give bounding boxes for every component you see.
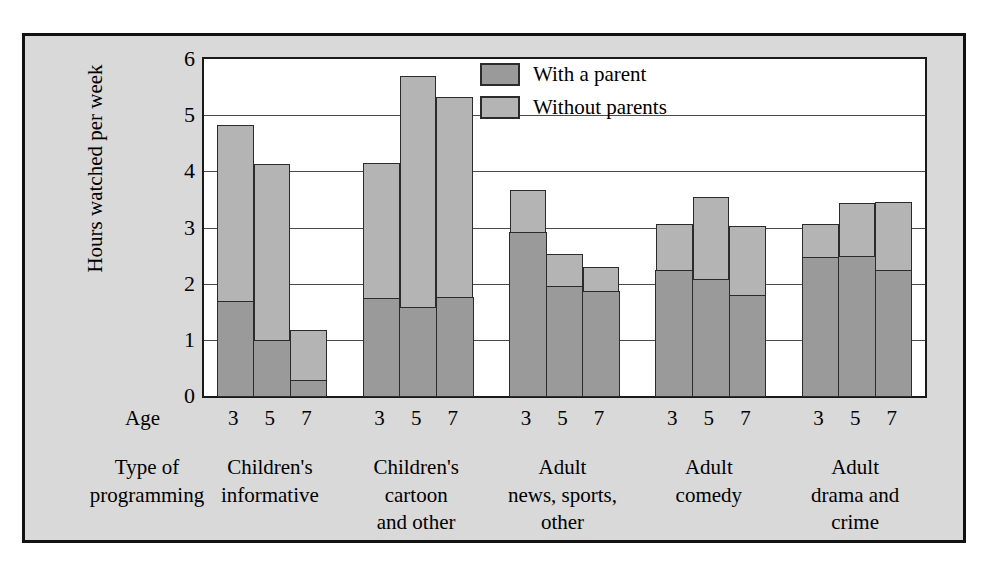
bar-segment-with-a-parent xyxy=(363,298,401,396)
bar-children-s-cartoon-and-other-age-7 xyxy=(436,97,473,396)
bar-adult-comedy-age-3 xyxy=(656,224,693,396)
age-tick-label: 5 xyxy=(411,406,422,431)
legend: With a parent Without parents xyxy=(480,58,667,124)
y-axis-tick-label: 1 xyxy=(184,329,195,351)
category-label-line: crime xyxy=(771,509,939,537)
bar-adult-news-sports-other-age-3 xyxy=(510,190,547,396)
bar-children-s-cartoon-and-other-age-5 xyxy=(400,76,437,396)
bar-segment-with-a-parent xyxy=(436,297,474,396)
age-tick-label: 5 xyxy=(850,406,861,431)
legend-label-without-parents: Without parents xyxy=(533,95,667,120)
bar-segment-with-a-parent xyxy=(582,291,620,396)
bar-segment-with-a-parent xyxy=(509,232,547,397)
category-label-children-s-cartoon-and-other: Children'scartoonand other xyxy=(332,454,500,537)
category-label-line: Children's xyxy=(332,454,500,482)
legend-swatch-with-a-parent xyxy=(480,63,520,86)
bar-children-s-cartoon-and-other-age-3 xyxy=(363,163,400,396)
age-tick-label: 7 xyxy=(448,406,459,431)
age-tick-label: 3 xyxy=(667,406,678,431)
bar-segment-with-a-parent xyxy=(290,380,328,397)
age-tick-label: 3 xyxy=(228,406,239,431)
bar-children-s-informative-age-5 xyxy=(254,164,291,396)
bar-children-s-informative-age-3 xyxy=(217,125,254,396)
bar-adult-comedy-age-5 xyxy=(693,197,730,396)
bar-segment-with-a-parent xyxy=(802,257,840,396)
bar-adult-drama-and-crime-age-7 xyxy=(875,202,912,396)
category-label-line: cartoon xyxy=(332,482,500,510)
bar-segment-with-a-parent xyxy=(399,307,437,397)
legend-label-with-a-parent: With a parent xyxy=(533,62,646,87)
category-label-line: Adult xyxy=(625,454,793,482)
bar-adult-news-sports-other-age-5 xyxy=(546,254,583,396)
category-label-line: drama and xyxy=(771,482,939,510)
y-axis-title: Hours watched per week xyxy=(83,39,108,299)
age-tick-label: 5 xyxy=(704,406,715,431)
category-label-children-s-informative: Children'sinformative xyxy=(186,454,354,509)
y-axis-tick-label: 6 xyxy=(184,48,195,70)
age-tick-label: 5 xyxy=(557,406,568,431)
age-tick-label: 3 xyxy=(521,406,532,431)
category-label-adult-comedy: Adultcomedy xyxy=(625,454,793,509)
bar-adult-drama-and-crime-age-5 xyxy=(839,203,876,396)
age-tick-label: 3 xyxy=(374,406,385,431)
age-tick-label: 7 xyxy=(301,406,312,431)
bar-segment-with-a-parent xyxy=(546,286,584,397)
bar-segment-with-a-parent xyxy=(692,279,730,397)
age-tick-label: 5 xyxy=(265,406,276,431)
bar-segment-with-a-parent xyxy=(729,295,767,396)
legend-item-with-a-parent: With a parent xyxy=(480,58,667,91)
legend-item-without-parents: Without parents xyxy=(480,91,667,124)
bar-segment-with-a-parent xyxy=(253,340,291,396)
y-axis-tick-label: 2 xyxy=(184,273,195,295)
y-axis-tick-label: 3 xyxy=(184,217,195,239)
y-axis-tick-label: 0 xyxy=(184,385,195,407)
chart-figure: Hours watched per week 0123456 With a pa… xyxy=(22,33,966,543)
bar-adult-news-sports-other-age-7 xyxy=(583,267,620,396)
category-label-line: comedy xyxy=(625,482,793,510)
bar-segment-with-a-parent xyxy=(838,256,876,396)
bar-segment-with-a-parent xyxy=(875,270,913,396)
y-axis-tick-label: 5 xyxy=(184,104,195,126)
category-label-line: Adult xyxy=(479,454,647,482)
age-axis-label: Age xyxy=(125,406,160,431)
bar-segment-with-a-parent xyxy=(655,270,693,396)
category-label-line: news, sports, xyxy=(479,482,647,510)
category-label-line: Children's xyxy=(186,454,354,482)
legend-swatch-without-parents xyxy=(480,96,520,119)
age-tick-label: 7 xyxy=(886,406,897,431)
category-label-adult-news-sports-other: Adultnews, sports,other xyxy=(479,454,647,537)
bar-adult-comedy-age-7 xyxy=(729,226,766,396)
category-label-line: informative xyxy=(186,482,354,510)
category-label-line: and other xyxy=(332,509,500,537)
bar-children-s-informative-age-7 xyxy=(290,330,327,396)
category-label-adult-drama-and-crime: Adultdrama andcrime xyxy=(771,454,939,537)
category-label-line: other xyxy=(479,509,647,537)
y-axis-tick-label: 4 xyxy=(184,160,195,182)
bar-segment-with-a-parent xyxy=(217,301,255,396)
age-tick-label: 3 xyxy=(813,406,824,431)
category-label-line: Adult xyxy=(771,454,939,482)
age-tick-label: 7 xyxy=(594,406,605,431)
bar-adult-drama-and-crime-age-3 xyxy=(802,224,839,396)
age-tick-label: 7 xyxy=(740,406,751,431)
